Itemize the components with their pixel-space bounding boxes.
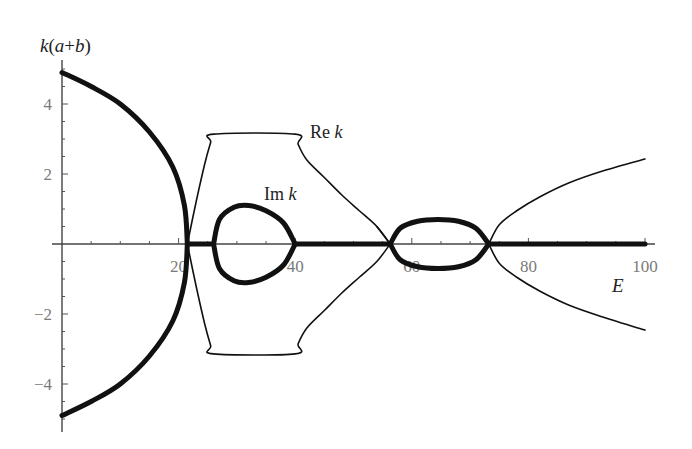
re-k-label: Re k [310,122,344,142]
x-tick-label: 100 [632,257,658,276]
im-k-curve [390,220,489,245]
x-axis-title: E [611,275,624,296]
y-tick-label: −4 [34,375,53,394]
x-tick-label: 80 [520,257,537,276]
y-tick-label: 4 [44,95,53,114]
y-axis-title: k(a+b) [40,35,91,57]
re-k-curve [489,159,645,244]
im-k-curve [62,244,187,416]
im-k-curve [62,73,187,245]
im-k-curve [214,244,296,283]
im-k-label: Im k [264,184,298,204]
y-tick-label: −2 [34,305,52,324]
re-k-curve [377,227,390,245]
im-k-curve [214,205,296,244]
y-tick-label: 2 [44,165,53,184]
band-structure-chart: 20406080100−4−224 k(a+b) E Re k Im k [0,0,692,449]
